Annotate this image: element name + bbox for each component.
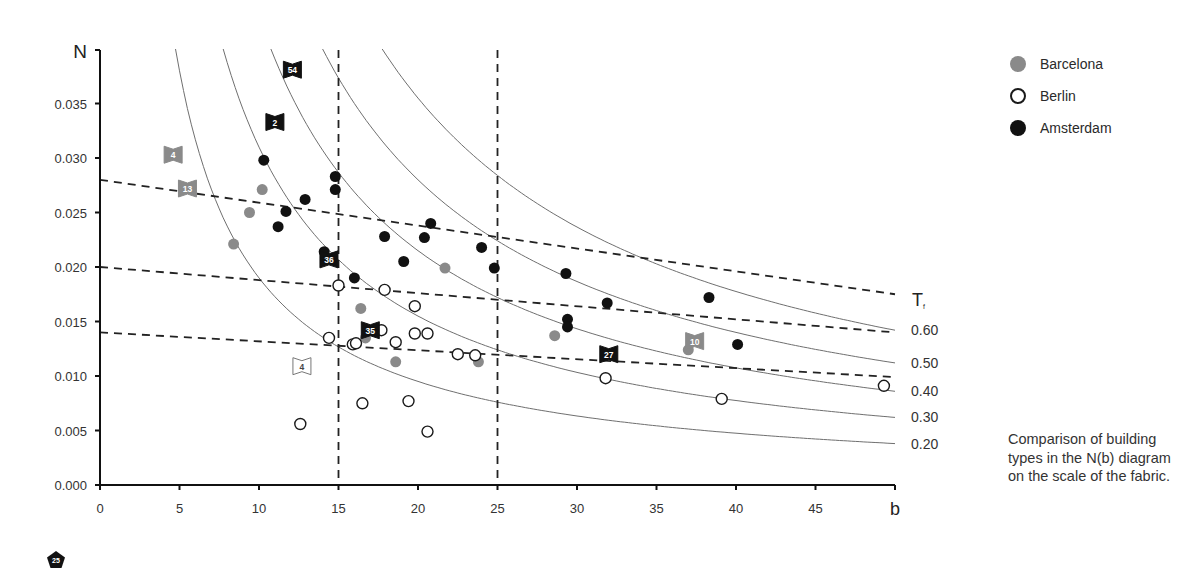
data-point-amsterdam (602, 298, 613, 309)
flag-marker: 35 (361, 322, 379, 339)
x-tick-label: 30 (570, 501, 584, 516)
y-tick-label: 0.030 (54, 151, 87, 166)
x-tick-label: 5 (176, 501, 183, 516)
x-tick-label: 40 (729, 501, 743, 516)
data-point-amsterdam (330, 184, 341, 195)
data-point-berlin (390, 337, 401, 348)
y-tick-label: 0.020 (54, 260, 87, 275)
page-number-badge: 25 (46, 550, 66, 570)
data-point-amsterdam (489, 263, 500, 274)
y-tick-label: 0.035 (54, 97, 87, 112)
data-point-berlin (878, 380, 889, 391)
x-tick-label: 45 (808, 501, 822, 516)
flag-marker: 13 (178, 180, 196, 197)
data-point-berlin (409, 328, 420, 339)
x-tick-label: 0 (96, 501, 103, 516)
data-point-berlin (470, 350, 481, 361)
flag-label: 27 (604, 350, 614, 360)
legend-item-barcelona: Barcelona (1010, 48, 1112, 80)
data-point-berlin (357, 398, 368, 409)
flag-label: 4 (171, 150, 176, 160)
flag-marker: 27 (600, 346, 618, 363)
legend-item-amsterdam: Amsterdam (1010, 112, 1112, 144)
iso-curves (176, 49, 896, 444)
curve-label: 0.30 (911, 409, 938, 425)
data-point-amsterdam (379, 231, 390, 242)
curve-label: 0.50 (911, 355, 938, 371)
data-point-berlin (716, 393, 727, 404)
flag-marker: 10 (686, 333, 704, 350)
x-tick-label: 15 (331, 501, 345, 516)
curve-group-label: Tf (912, 290, 925, 310)
filled-black-circle-icon (1010, 120, 1026, 136)
data-point-amsterdam (398, 256, 409, 267)
legend-label: Berlin (1040, 88, 1076, 104)
iso-curve (223, 49, 895, 417)
data-point-barcelona (355, 303, 366, 314)
iso-curve (176, 49, 896, 444)
flag-label: 10 (690, 337, 700, 347)
flag-label: 2 (273, 118, 278, 128)
curve-label: 0.20 (911, 436, 938, 452)
data-point-amsterdam (476, 242, 487, 253)
data-point-barcelona (244, 207, 255, 218)
y-tick-label: 0.010 (54, 369, 87, 384)
y-tick-label: 0.005 (54, 424, 87, 439)
y-tick-label: 0.015 (54, 315, 87, 330)
data-point-amsterdam (300, 194, 311, 205)
y-tick-label: 0.025 (54, 206, 87, 221)
data-point-berlin (452, 349, 463, 360)
filled-gray-circle-icon (1010, 56, 1026, 72)
building-type-flags: 542413363542710 (164, 61, 704, 374)
x-axis-label: b (890, 499, 900, 519)
data-point-amsterdam (349, 272, 360, 283)
data-point-barcelona (257, 184, 268, 195)
data-point-berlin (409, 301, 420, 312)
x-tick-label: 20 (411, 501, 425, 516)
data-point-berlin (379, 284, 390, 295)
figure-caption: Comparison of building types in the N(b)… (1008, 430, 1178, 486)
data-point-barcelona (549, 330, 560, 341)
y-axis-label: N (73, 41, 87, 62)
flag-label: 35 (366, 326, 376, 336)
flag-label: 4 (300, 362, 305, 372)
data-point-berlin (403, 396, 414, 407)
data-point-barcelona (390, 356, 401, 367)
data-point-berlin (600, 373, 611, 384)
flag-label: 36 (324, 255, 334, 265)
flag-marker: 4 (293, 358, 311, 375)
legend-label: Amsterdam (1040, 120, 1112, 136)
x-tick-label: 10 (252, 501, 266, 516)
iso-curve (323, 49, 895, 363)
x-tick-label: 25 (490, 501, 504, 516)
data-point-amsterdam (281, 206, 292, 217)
open-circle-icon (1010, 88, 1026, 104)
data-points (228, 155, 889, 437)
data-point-amsterdam (704, 292, 715, 303)
data-point-berlin (422, 328, 433, 339)
legend-item-berlin: Berlin (1010, 80, 1112, 112)
flag-marker: 36 (320, 251, 338, 268)
flag-marker: 4 (164, 146, 182, 163)
axes: 0.0000.0050.0100.0150.0200.0250.0300.035… (54, 41, 900, 519)
page-number: 25 (52, 557, 60, 564)
flag-marker: 54 (283, 61, 301, 78)
curve-label: 0.40 (911, 383, 938, 399)
data-point-barcelona (440, 263, 451, 274)
data-point-amsterdam (425, 218, 436, 229)
data-point-amsterdam (330, 171, 341, 182)
curve-group-subscript: f (923, 303, 925, 310)
legend: Barcelona Berlin Amsterdam (1010, 48, 1112, 144)
data-point-barcelona (228, 239, 239, 250)
data-point-amsterdam (732, 339, 743, 350)
flag-label: 13 (183, 184, 193, 194)
y-tick-label: 0.000 (54, 478, 87, 493)
data-point-amsterdam (419, 232, 430, 243)
data-point-berlin (295, 419, 306, 430)
sloped-dashed-line (100, 332, 895, 377)
legend-label: Barcelona (1040, 56, 1103, 72)
data-point-amsterdam (258, 155, 269, 166)
data-point-amsterdam (560, 268, 571, 279)
curve-label: 0.60 (911, 322, 938, 338)
flag-label: 54 (288, 65, 298, 75)
